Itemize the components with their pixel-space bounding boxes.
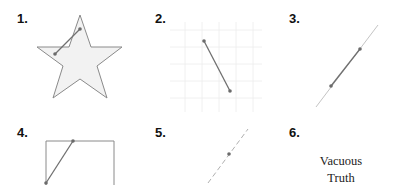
segment: [204, 41, 230, 91]
rectangle-shape: [46, 141, 114, 185]
panel-3-line-diagram: [316, 25, 378, 107]
endpoint: [71, 139, 75, 143]
panel-4-rectangle-diagram: [44, 139, 114, 185]
panel-5-point-diagram: [208, 129, 248, 183]
vacuous-line: Vacuous: [301, 153, 381, 170]
segment: [331, 49, 360, 86]
endpoint: [202, 39, 206, 43]
grid: [170, 22, 262, 112]
endpoint: [228, 89, 232, 93]
dashed-line: [208, 129, 248, 183]
panel-2-plane-diagram: [170, 22, 262, 112]
segment: [46, 141, 73, 183]
truth-line: Truth: [301, 170, 381, 185]
endpoint: [53, 52, 57, 56]
endpoint: [44, 181, 48, 185]
vacuous-truth-text: Vacuous Truth: [301, 153, 381, 185]
endpoint: [358, 47, 362, 51]
panel-1-star-diagram: [37, 15, 122, 98]
endpoint: [329, 84, 333, 88]
endpoint: [78, 27, 82, 31]
point: [227, 152, 231, 156]
